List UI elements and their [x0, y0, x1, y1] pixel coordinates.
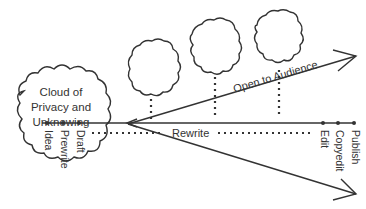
audience-cloud-1	[128, 39, 180, 96]
rewrite-label: Rewrite	[172, 128, 209, 139]
audience-cloud-2	[190, 18, 241, 74]
stage-draft: Draft	[75, 130, 86, 153]
lower-arrowhead	[333, 179, 356, 200]
cloud-label-line: Privacy and	[22, 100, 100, 115]
audience-arrowhead	[333, 50, 356, 71]
stage-idea: Idea	[43, 130, 54, 150]
audience-cloud-3	[255, 10, 304, 63]
stage-publish: Publish	[350, 130, 361, 164]
writing-process-diagram: Cloud of Privacy and Unknowing Idea Prew…	[0, 0, 366, 209]
stage-copyedit: Copyedit	[334, 130, 345, 171]
cloud-label: Cloud of Privacy and Unknowing	[22, 85, 100, 130]
cloud-label-line: Unknowing	[22, 115, 100, 130]
stage-prewrite: Prewrite	[59, 130, 70, 169]
stage-edit: Edit	[319, 130, 330, 148]
cloud-label-line: Cloud of	[22, 85, 100, 100]
